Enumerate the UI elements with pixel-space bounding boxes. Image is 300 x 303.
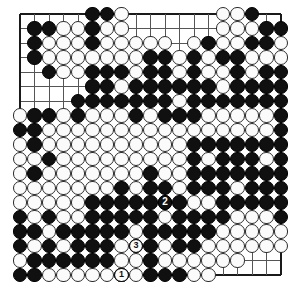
white-stone[interactable] xyxy=(274,50,288,64)
white-stone[interactable] xyxy=(100,36,114,50)
black-stone[interactable] xyxy=(274,108,288,122)
black-stone[interactable] xyxy=(187,137,201,151)
black-stone[interactable] xyxy=(201,137,215,151)
white-stone[interactable] xyxy=(129,268,143,282)
black-stone[interactable] xyxy=(259,195,273,209)
white-stone[interactable] xyxy=(85,268,99,282)
black-stone[interactable] xyxy=(27,268,41,282)
black-stone[interactable] xyxy=(172,108,186,122)
white-stone[interactable] xyxy=(129,137,143,151)
white-stone[interactable] xyxy=(129,65,143,79)
white-stone[interactable] xyxy=(27,152,41,166)
black-stone[interactable] xyxy=(216,210,230,224)
black-stone[interactable] xyxy=(100,224,114,238)
black-stone[interactable] xyxy=(187,65,201,79)
black-stone[interactable] xyxy=(259,137,273,151)
white-stone[interactable] xyxy=(216,253,230,267)
white-stone[interactable] xyxy=(172,94,186,108)
white-stone[interactable] xyxy=(85,108,99,122)
black-stone[interactable] xyxy=(172,210,186,224)
white-stone[interactable] xyxy=(230,108,244,122)
black-stone[interactable] xyxy=(201,181,215,195)
black-stone[interactable] xyxy=(143,210,157,224)
black-stone[interactable] xyxy=(71,108,85,122)
black-stone[interactable] xyxy=(187,108,201,122)
black-stone[interactable] xyxy=(201,224,215,238)
white-stone[interactable] xyxy=(143,108,157,122)
black-stone[interactable] xyxy=(85,94,99,108)
black-stone[interactable] xyxy=(13,123,27,137)
black-stone[interactable] xyxy=(201,79,215,93)
white-stone[interactable] xyxy=(27,181,41,195)
black-stone[interactable] xyxy=(13,268,27,282)
white-stone[interactable] xyxy=(129,36,143,50)
black-stone[interactable] xyxy=(274,21,288,35)
black-stone[interactable] xyxy=(143,166,157,180)
black-stone[interactable] xyxy=(85,21,99,35)
black-stone[interactable] xyxy=(187,181,201,195)
white-stone[interactable] xyxy=(100,152,114,166)
white-stone[interactable] xyxy=(27,239,41,253)
white-stone[interactable] xyxy=(13,137,27,151)
white-stone[interactable] xyxy=(216,108,230,122)
move-3-white[interactable] xyxy=(129,239,143,253)
white-stone[interactable] xyxy=(85,123,99,137)
black-stone[interactable] xyxy=(13,224,27,238)
white-stone[interactable] xyxy=(27,195,41,209)
white-stone[interactable] xyxy=(71,210,85,224)
white-stone[interactable] xyxy=(56,195,70,209)
white-stone[interactable] xyxy=(71,152,85,166)
white-stone[interactable] xyxy=(56,210,70,224)
black-stone[interactable] xyxy=(85,210,99,224)
white-stone[interactable] xyxy=(259,108,273,122)
white-stone[interactable] xyxy=(187,36,201,50)
black-stone[interactable] xyxy=(216,166,230,180)
white-stone[interactable] xyxy=(56,108,70,122)
black-stone[interactable] xyxy=(259,65,273,79)
black-stone[interactable] xyxy=(143,195,157,209)
black-stone[interactable] xyxy=(158,108,172,122)
black-stone[interactable] xyxy=(143,50,157,64)
black-stone[interactable] xyxy=(100,94,114,108)
black-stone[interactable] xyxy=(172,224,186,238)
white-stone[interactable] xyxy=(114,79,128,93)
white-stone[interactable] xyxy=(143,123,157,137)
white-stone[interactable] xyxy=(187,268,201,282)
black-stone[interactable] xyxy=(158,65,172,79)
white-stone[interactable] xyxy=(230,210,244,224)
black-stone[interactable] xyxy=(259,181,273,195)
white-stone[interactable] xyxy=(56,137,70,151)
white-stone[interactable] xyxy=(230,224,244,238)
white-stone[interactable] xyxy=(56,239,70,253)
black-stone[interactable] xyxy=(27,137,41,151)
white-stone[interactable] xyxy=(158,239,172,253)
white-stone[interactable] xyxy=(42,166,56,180)
white-stone[interactable] xyxy=(56,166,70,180)
white-stone[interactable] xyxy=(201,65,215,79)
white-stone[interactable] xyxy=(13,181,27,195)
black-stone[interactable] xyxy=(259,21,273,35)
white-stone[interactable] xyxy=(216,79,230,93)
white-stone[interactable] xyxy=(143,152,157,166)
black-stone[interactable] xyxy=(245,195,259,209)
black-stone[interactable] xyxy=(259,166,273,180)
black-stone[interactable] xyxy=(201,166,215,180)
black-stone[interactable] xyxy=(143,239,157,253)
black-stone[interactable] xyxy=(114,94,128,108)
white-stone[interactable] xyxy=(245,239,259,253)
white-stone[interactable] xyxy=(245,65,259,79)
black-stone[interactable] xyxy=(71,239,85,253)
black-stone[interactable] xyxy=(143,65,157,79)
white-stone[interactable] xyxy=(143,36,157,50)
black-stone[interactable] xyxy=(129,79,143,93)
white-stone[interactable] xyxy=(27,210,41,224)
white-stone[interactable] xyxy=(100,108,114,122)
black-stone[interactable] xyxy=(216,152,230,166)
black-stone[interactable] xyxy=(27,253,41,267)
white-stone[interactable] xyxy=(172,123,186,137)
white-stone[interactable] xyxy=(187,123,201,137)
white-stone[interactable] xyxy=(274,224,288,238)
white-stone[interactable] xyxy=(71,36,85,50)
black-stone[interactable] xyxy=(187,210,201,224)
white-stone[interactable] xyxy=(216,224,230,238)
